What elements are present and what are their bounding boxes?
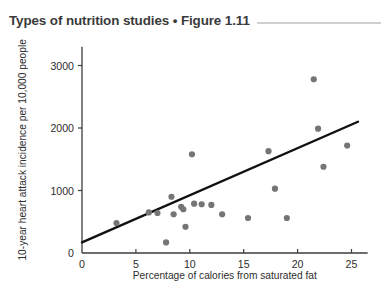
y-axis: 0100020003000	[50, 47, 82, 259]
data-point	[168, 194, 174, 200]
x-tick-label: 0	[79, 258, 85, 270]
y-tick-label: 0	[68, 247, 74, 259]
data-point	[171, 211, 177, 217]
best-fit-line	[82, 122, 358, 243]
data-point	[191, 201, 197, 207]
chart-container: 0100020003000 0510152025 Percentage of c…	[0, 0, 381, 284]
trend-line	[82, 122, 358, 243]
data-point	[219, 211, 225, 217]
data-point	[311, 76, 317, 82]
scatter-plot: 0100020003000 0510152025 Percentage of c…	[0, 0, 381, 284]
data-point	[180, 206, 186, 212]
figure-root: Types of nutrition studies • Figure 1.11…	[0, 0, 381, 284]
data-point	[146, 209, 152, 215]
data-point	[315, 126, 321, 132]
data-point	[344, 142, 350, 148]
data-point	[265, 148, 271, 154]
x-tick-label: 20	[292, 258, 304, 270]
x-axis: 0510152025	[79, 249, 368, 270]
data-point	[272, 186, 278, 192]
data-point	[199, 201, 205, 207]
x-tick-label: 10	[184, 258, 196, 270]
data-point	[208, 202, 214, 208]
data-point	[284, 215, 290, 221]
x-tick-label: 15	[238, 258, 250, 270]
y-tick-label: 3000	[50, 60, 74, 72]
data-point	[245, 215, 251, 221]
x-axis-title: Percentage of calories from saturated fa…	[133, 270, 317, 281]
data-points	[113, 76, 350, 245]
x-tick-label: 5	[133, 258, 139, 270]
x-tick-label: 25	[346, 258, 358, 270]
data-point	[182, 224, 188, 230]
y-tick-label: 2000	[50, 122, 74, 134]
data-point	[189, 151, 195, 157]
y-tick-label: 1000	[50, 185, 74, 197]
data-point	[154, 210, 160, 216]
data-point	[113, 220, 119, 226]
data-point	[163, 239, 169, 245]
data-point	[320, 164, 326, 170]
y-axis-title: 10-year heart attack incidence per 10,00…	[17, 39, 28, 261]
